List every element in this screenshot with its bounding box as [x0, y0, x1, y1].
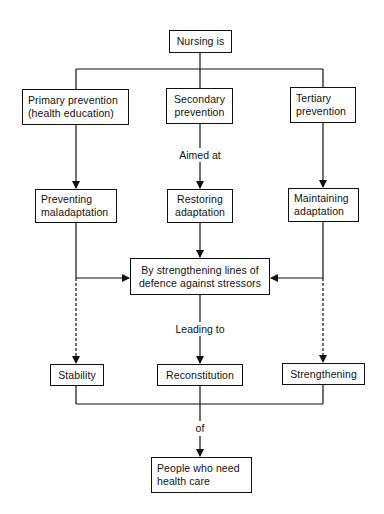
reconstitution-box: Reconstitution: [157, 364, 243, 386]
stability-label: Stability: [58, 369, 96, 382]
preventing-maladaptation-box: Preventing maladaptation: [35, 189, 117, 223]
method-line1: By strengthening lines of: [139, 264, 261, 277]
preventing-line1: Preventing: [41, 193, 108, 206]
maintaining-line1: Maintaining: [294, 192, 349, 205]
stability-box: Stability: [50, 364, 104, 386]
target-line1: People who need: [157, 462, 240, 475]
target-line2: health care: [157, 475, 240, 488]
secondary-prevention-line1: Secondary: [174, 93, 225, 106]
people-who-need-health-care-box: People who need health care: [151, 457, 252, 493]
nursing-is-label: Nursing is: [177, 35, 225, 48]
tertiary-prevention-line2: prevention: [296, 105, 346, 118]
strengthening-label: Strengthening: [290, 368, 357, 381]
tertiary-prevention-line1: Tertiary: [296, 92, 346, 105]
leading-to-label: Leading to: [173, 323, 226, 336]
maintaining-adaptation-box: Maintaining adaptation: [288, 188, 359, 222]
secondary-prevention-line2: prevention: [174, 106, 225, 119]
of-label: of: [194, 422, 207, 435]
preventing-line2: maladaptation: [41, 206, 108, 219]
lines-of-defence-box: By strengthening lines of defence agains…: [130, 258, 270, 295]
restoring-adaptation-box: Restoring adaptation: [167, 189, 233, 223]
secondary-prevention-box: Secondary prevention: [166, 88, 233, 124]
restoring-line1: Restoring: [175, 193, 225, 206]
primary-prevention-line1: Primary prevention: [28, 94, 118, 107]
primary-prevention-box: Primary prevention (health education): [22, 89, 129, 125]
strengthening-box: Strengthening: [282, 363, 365, 385]
maintaining-line2: adaptation: [294, 205, 349, 218]
method-line2: defence against stressors: [139, 277, 261, 290]
tertiary-prevention-box: Tertiary prevention: [290, 87, 356, 123]
aimed-at-label: Aimed at: [177, 149, 222, 162]
connector-lines: [0, 0, 384, 514]
reconstitution-label: Reconstitution: [166, 369, 234, 382]
restoring-line2: adaptation: [175, 206, 225, 219]
nursing-is-box: Nursing is: [169, 30, 232, 53]
primary-prevention-line2: (health education): [28, 107, 118, 120]
